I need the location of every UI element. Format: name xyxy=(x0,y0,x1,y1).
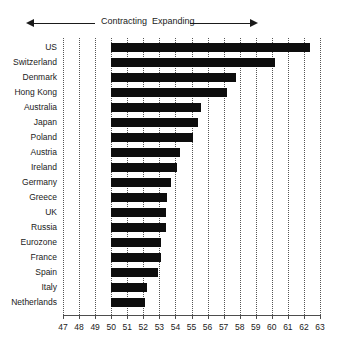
bar xyxy=(111,178,170,187)
tick-mark xyxy=(63,315,64,319)
tick-mark xyxy=(111,315,112,319)
bar xyxy=(111,268,158,277)
bar xyxy=(111,58,275,67)
tick-mark xyxy=(79,315,80,319)
expanding-label: Expanding xyxy=(152,15,195,27)
gridline xyxy=(320,38,321,315)
bar-row: Poland xyxy=(63,130,320,145)
bar-row: Hong Kong xyxy=(63,85,320,100)
bar-row: Russia xyxy=(63,220,320,235)
bar-row: Italy xyxy=(63,280,320,295)
bar-row: Japan xyxy=(63,115,320,130)
bar xyxy=(111,118,198,127)
arrow-left-shaft xyxy=(33,23,95,24)
bar-row: Netherlands xyxy=(63,295,320,310)
bar-row: Australia xyxy=(63,100,320,115)
bar xyxy=(111,253,161,262)
category-label: Spain xyxy=(35,265,57,280)
category-label: Switzerland xyxy=(13,55,57,70)
bar xyxy=(111,148,180,157)
bar xyxy=(111,103,201,112)
category-label: Poland xyxy=(31,130,57,145)
category-label: Austria xyxy=(31,145,57,160)
category-label: Russia xyxy=(31,220,57,235)
bar xyxy=(111,223,166,232)
bar-row: Denmark xyxy=(63,70,320,85)
bar-row: Eurozone xyxy=(63,235,320,250)
category-label: Australia xyxy=(24,100,57,115)
category-label: Ireland xyxy=(31,160,57,175)
category-label: US xyxy=(45,40,57,55)
tick-mark xyxy=(288,315,289,319)
category-label: Hong Kong xyxy=(14,85,57,100)
bar-row: US xyxy=(63,40,320,55)
bar xyxy=(111,298,145,307)
arrow-right-shaft xyxy=(190,23,252,24)
bar-row: Ireland xyxy=(63,160,320,175)
tick-mark xyxy=(95,315,96,319)
bar xyxy=(111,163,177,172)
category-label: Italy xyxy=(41,280,57,295)
tick-mark xyxy=(192,315,193,319)
tick-mark xyxy=(304,315,305,319)
bar-row: Austria xyxy=(63,145,320,160)
category-label: France xyxy=(31,250,57,265)
tick-label: 63 xyxy=(309,322,331,333)
tick-mark xyxy=(320,315,321,319)
bar xyxy=(111,73,236,82)
tick-mark xyxy=(272,315,273,319)
category-label: Japan xyxy=(34,115,57,130)
category-label: Netherlands xyxy=(11,295,57,310)
bar-row: UK xyxy=(63,205,320,220)
bar-row: Spain xyxy=(63,265,320,280)
bar xyxy=(111,238,161,247)
bar xyxy=(111,133,193,142)
tick-mark xyxy=(127,315,128,319)
bar xyxy=(111,208,166,217)
tick-mark xyxy=(240,315,241,319)
bar xyxy=(111,88,227,97)
pmi-bar-chart: Contracting Expanding USSwitzerlandDenma… xyxy=(0,0,348,350)
bar-row: Greece xyxy=(63,190,320,205)
contracting-label: Contracting xyxy=(101,15,147,27)
bar xyxy=(111,43,310,52)
bar xyxy=(111,193,167,202)
bar-row: France xyxy=(63,250,320,265)
tick-mark xyxy=(159,315,160,319)
bar xyxy=(111,283,146,292)
direction-legend: Contracting Expanding xyxy=(0,14,348,34)
tick-mark xyxy=(224,315,225,319)
category-label: UK xyxy=(45,205,57,220)
category-label: Eurozone xyxy=(21,235,57,250)
tick-mark xyxy=(143,315,144,319)
plot-area: USSwitzerlandDenmarkHong KongAustraliaJa… xyxy=(63,38,320,315)
tick-mark xyxy=(256,315,257,319)
bar-row: Germany xyxy=(63,175,320,190)
category-label: Germany xyxy=(22,175,57,190)
category-label: Greece xyxy=(29,190,57,205)
arrow-right-icon xyxy=(250,19,258,27)
bar-row: Switzerland xyxy=(63,55,320,70)
tick-mark xyxy=(208,315,209,319)
category-label: Denmark xyxy=(23,70,57,85)
tick-mark xyxy=(175,315,176,319)
